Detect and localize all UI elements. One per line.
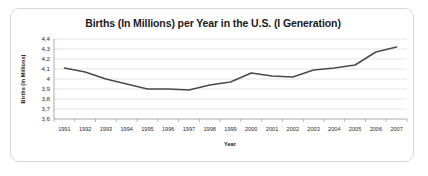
gridlines: [54, 39, 407, 109]
y-axis-title: Births (In Millions): [20, 54, 26, 103]
x-tick-label: 2002: [287, 126, 299, 132]
y-tick-label: 3,9: [41, 85, 50, 92]
y-tick-label: 3,7: [41, 105, 50, 112]
chart-frame: Births (In Millions) per Year in the U.S…: [10, 8, 414, 162]
y-tick-label: 3,6: [41, 115, 50, 122]
x-tick-label: 1998: [204, 126, 216, 132]
x-tick-label: 1991: [58, 126, 70, 132]
x-tick-label: 2003: [307, 126, 319, 132]
y-tick-label: 4,4: [41, 35, 50, 42]
x-axis-tick-labels: 1991199219931994199519961997199819992000…: [58, 126, 403, 132]
y-axis-tick-labels: 4,44,34,24,143,93,83,73,6: [41, 35, 50, 122]
births-series-line: [64, 47, 396, 90]
x-tick-label: 2000: [245, 126, 257, 132]
x-tick-label: 1993: [100, 126, 112, 132]
x-tick-label: 1999: [224, 126, 236, 132]
x-tick-label: 2006: [370, 126, 382, 132]
x-tick-label: 1994: [120, 126, 132, 132]
line-chart-svg: 4,44,34,24,143,93,83,73,6 19911992199319…: [11, 9, 415, 163]
x-tick-label: 2005: [349, 126, 361, 132]
y-tick-label: 4,2: [41, 55, 50, 62]
x-tick-label: 2001: [266, 126, 278, 132]
y-tick-label: 4: [47, 75, 51, 82]
chart-plot-area: 4,44,34,24,143,93,83,73,6 19911992199319…: [11, 9, 415, 163]
x-tick-label: 2007: [390, 126, 402, 132]
x-tick-label: 2004: [328, 126, 340, 132]
x-tick-label: 1996: [162, 126, 174, 132]
x-axis-ticks: [54, 119, 407, 122]
x-tick-label: 1995: [141, 126, 153, 132]
x-tick-label: 1992: [79, 126, 91, 132]
x-axis-title: Year: [224, 141, 237, 147]
x-tick-label: 1997: [183, 126, 195, 132]
y-tick-label: 4,3: [41, 45, 50, 52]
y-tick-label: 4,1: [41, 65, 50, 72]
y-tick-label: 3,8: [41, 95, 50, 102]
